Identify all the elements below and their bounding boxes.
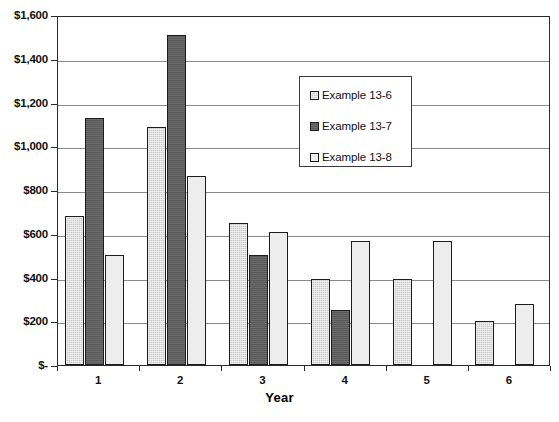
chart-legend: Example 13-6Example 13-7Example 13-8 [299,76,412,167]
x-axis-tick-label-3: 3 [242,374,282,386]
y-axis-tick-label: $1,400 [0,53,48,65]
y-axis-tick-label: $1,000 [0,140,48,152]
y-axis-tick-label: $800 [0,184,48,196]
plot-area [57,16,550,366]
x-axis-tick-mark [550,366,551,371]
legend-entry: Example 13-6 [310,89,392,101]
legend-swatch-icon [310,91,319,100]
gridline [58,192,549,193]
x-axis-tick-mark [468,366,469,371]
x-axis-tick-label-2: 2 [160,374,200,386]
bar-example-13-7-year-3 [249,255,268,365]
bar-example-13-6-year-4 [311,279,330,365]
y-axis-tick-label: $1,600 [0,9,48,21]
x-axis-tick-mark [304,366,305,371]
legend-label: Example 13-7 [322,120,392,132]
legend-entry: Example 13-8 [310,151,392,163]
x-axis-tick-label-4: 4 [325,374,365,386]
gridline [58,61,549,62]
bar-example-13-6-year-3 [229,223,248,365]
gridline [58,236,549,237]
gridline [58,280,549,281]
chart-canvas: $-$200$400$600$800$1,000$1,200$1,400$1,6… [0,0,559,422]
x-axis-tick-label-5: 5 [407,374,447,386]
y-axis-tick-label: $400 [0,272,48,284]
x-axis-tick-mark [57,366,58,371]
legend-label: Example 13-6 [322,89,392,101]
legend-swatch-icon [310,122,319,131]
bar-example-13-7-year-1 [85,118,104,365]
bar-example-13-8-year-1 [105,255,124,365]
bar-example-13-6-year-5 [393,279,412,365]
x-axis-tick-mark [221,366,222,371]
legend-entry: Example 13-7 [310,120,392,132]
x-axis-tick-label-1: 1 [78,374,118,386]
y-axis-tick-label: $1,200 [0,97,48,109]
bar-example-13-8-year-2 [187,176,206,365]
legend-swatch-icon [310,153,319,162]
bar-example-13-6-year-6 [475,321,494,365]
bar-example-13-8-year-5 [433,241,452,365]
bar-example-13-8-year-4 [351,241,370,365]
x-axis-tick-mark [139,366,140,371]
legend-label: Example 13-8 [322,151,392,163]
y-axis-tick-label: $200 [0,315,48,327]
bar-example-13-8-year-3 [269,232,288,365]
y-axis-tick-label: $- [0,359,48,371]
y-axis-tick-label: $600 [0,228,48,240]
x-axis-tick-label-6: 6 [489,374,529,386]
bar-example-13-6-year-2 [147,127,166,365]
bar-example-13-8-year-6 [515,304,534,365]
bar-example-13-7-year-2 [167,35,186,365]
bar-example-13-6-year-1 [65,216,84,365]
x-axis-title: Year [0,390,559,405]
x-axis-tick-mark [386,366,387,371]
bar-example-13-7-year-4 [331,310,350,365]
